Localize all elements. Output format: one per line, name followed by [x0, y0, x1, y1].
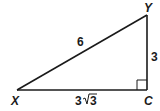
vertex-label-y: Y [144, 1, 153, 15]
side-label-xy: 6 [77, 35, 84, 49]
side-label-xc-coefficient: 3 [75, 94, 82, 108]
vertex-label-x: X [10, 94, 20, 108]
side-xy [17, 15, 147, 90]
side-label-xc-radicand: 3 [90, 94, 97, 108]
triangle-diagram: Y C X 6 3 3 3 [0, 0, 160, 111]
right-angle-marker [137, 80, 147, 90]
vertex-label-c: C [144, 94, 153, 108]
side-label-xc: 3 3 [75, 94, 97, 108]
side-label-yc: 3 [151, 50, 158, 64]
